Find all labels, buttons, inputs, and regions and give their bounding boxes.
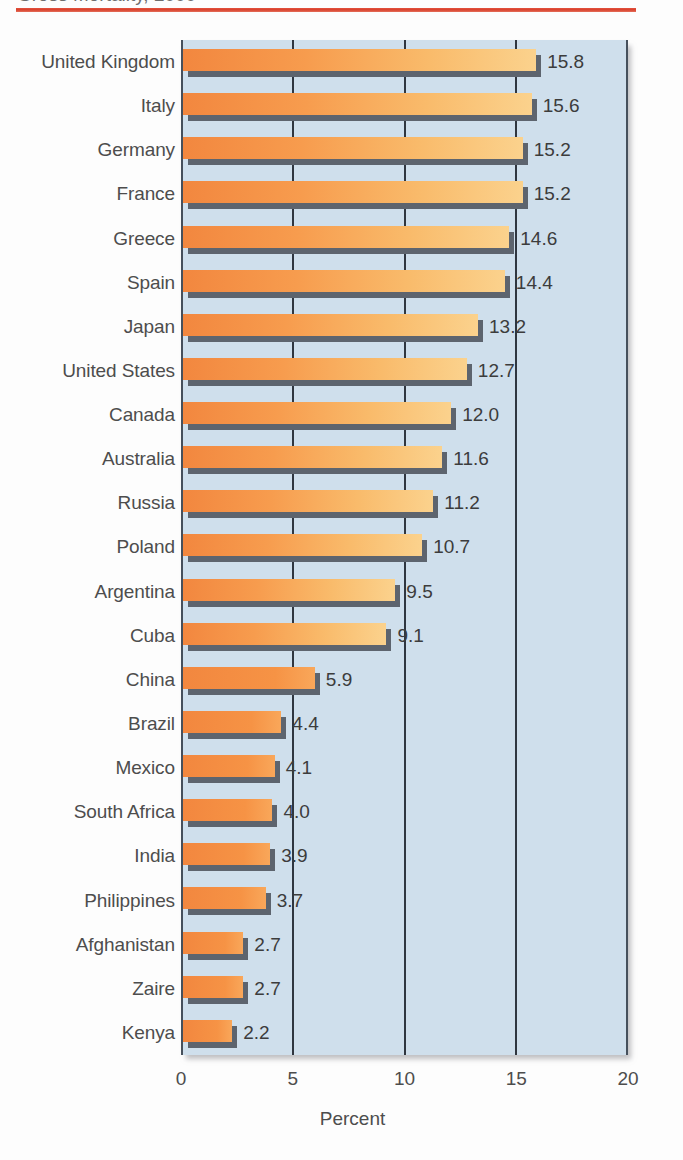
bar-group[interactable] (183, 799, 272, 827)
x-axis-title-text: Percent (320, 1108, 385, 1129)
bar[interactable] (183, 579, 395, 601)
bar-row: France15.2 (0, 172, 683, 216)
bar-row: Germany15.2 (0, 128, 683, 172)
bar[interactable] (183, 446, 442, 468)
bar-value-label: 4.0 (283, 801, 309, 823)
category-label: South Africa (74, 801, 175, 823)
bar-value-label: 9.1 (397, 625, 423, 647)
bar-group[interactable] (183, 932, 243, 960)
bar[interactable] (183, 667, 315, 689)
bar-group[interactable] (183, 887, 266, 915)
bar-row: South Africa4.0 (0, 790, 683, 834)
bar-group[interactable] (183, 755, 275, 783)
category-label: Germany (98, 139, 175, 161)
bar[interactable] (183, 755, 275, 777)
category-label: China (126, 669, 175, 691)
bar-value-label: 5.9 (326, 669, 352, 691)
bar-row: Afghanistan2.7 (0, 923, 683, 967)
bar-value-label: 11.2 (444, 492, 480, 514)
category-label: Russia (118, 492, 175, 514)
bar-row: United Kingdom15.8 (0, 40, 683, 84)
bar-value-label: 3.7 (277, 890, 303, 912)
category-label: Canada (109, 404, 175, 426)
x-tick-label-0: 0 (176, 1068, 187, 1090)
bar-row: India3.9 (0, 834, 683, 878)
category-label: Greece (113, 228, 175, 250)
bar[interactable] (183, 137, 523, 159)
bar[interactable] (183, 976, 243, 998)
bar[interactable] (183, 799, 272, 821)
bar[interactable] (183, 932, 243, 954)
bar-row: Russia11.2 (0, 481, 683, 525)
bar-group[interactable] (183, 667, 315, 695)
bar-value-label: 10.7 (433, 536, 470, 558)
bar[interactable] (183, 93, 532, 115)
bar-group[interactable] (183, 1020, 232, 1048)
bar-value-label: 9.5 (406, 581, 432, 603)
bar[interactable] (183, 534, 422, 556)
bar[interactable] (183, 623, 386, 645)
bar[interactable] (183, 1020, 232, 1042)
bar-value-label: 14.6 (520, 228, 557, 250)
category-label: Afghanistan (76, 934, 175, 956)
bar-row: Canada12.0 (0, 393, 683, 437)
bar-row: Poland10.7 (0, 525, 683, 569)
bar-value-label: 15.2 (534, 183, 571, 205)
bar-row: Japan13.2 (0, 305, 683, 349)
bar-group[interactable] (183, 402, 451, 430)
x-tick-label-20: 20 (617, 1068, 638, 1090)
bar-group[interactable] (183, 137, 523, 165)
bar-group[interactable] (183, 623, 386, 651)
category-label: United Kingdom (41, 51, 175, 73)
category-label: United States (62, 360, 175, 382)
bar-value-label: 15.6 (543, 95, 580, 117)
bar-row: Kenya2.2 (0, 1011, 683, 1055)
bar-value-label: 2.2 (243, 1022, 269, 1044)
bar[interactable] (183, 402, 451, 424)
bar-row: Zaire2.7 (0, 967, 683, 1011)
x-axis-tick-labels: 05101520 (0, 1068, 683, 1094)
bar-group[interactable] (183, 314, 478, 342)
bar-row: Australia11.6 (0, 437, 683, 481)
bar-value-label: 15.8 (547, 51, 584, 73)
bar-group[interactable] (183, 446, 442, 474)
bar[interactable] (183, 270, 505, 292)
bar[interactable] (183, 358, 467, 380)
bar-row: Brazil4.4 (0, 702, 683, 746)
bar[interactable] (183, 226, 509, 248)
bar-row: Spain14.4 (0, 261, 683, 305)
bar[interactable] (183, 711, 281, 733)
category-label: Zaire (132, 978, 175, 1000)
bar-group[interactable] (183, 270, 505, 298)
bar-group[interactable] (183, 490, 433, 518)
bar-value-label: 14.4 (516, 272, 553, 294)
x-axis-title: Percent (0, 1108, 683, 1130)
bar-group[interactable] (183, 976, 243, 1004)
category-label: France (116, 183, 175, 205)
bar-group[interactable] (183, 358, 467, 386)
bar-group[interactable] (183, 49, 536, 77)
bar-group[interactable] (183, 181, 523, 209)
bar-value-label: 4.4 (292, 713, 318, 735)
bar[interactable] (183, 49, 536, 71)
bar-row: Argentina9.5 (0, 570, 683, 614)
category-label: Argentina (95, 581, 175, 603)
bar[interactable] (183, 490, 433, 512)
category-label: Brazil (128, 713, 175, 735)
bar-value-label: 15.2 (534, 139, 571, 161)
bar-group[interactable] (183, 843, 270, 871)
bar[interactable] (183, 843, 270, 865)
bar[interactable] (183, 887, 266, 909)
category-label: Mexico (115, 757, 175, 779)
bar-group[interactable] (183, 579, 395, 607)
category-label: Poland (116, 536, 175, 558)
bar-group[interactable] (183, 711, 281, 739)
bar[interactable] (183, 314, 478, 336)
bar-group[interactable] (183, 93, 532, 121)
bar[interactable] (183, 181, 523, 203)
category-label: Australia (102, 448, 175, 470)
bar-group[interactable] (183, 226, 509, 254)
bar-value-label: 12.7 (478, 360, 515, 382)
bar-value-label: 4.1 (286, 757, 312, 779)
bar-group[interactable] (183, 534, 422, 562)
